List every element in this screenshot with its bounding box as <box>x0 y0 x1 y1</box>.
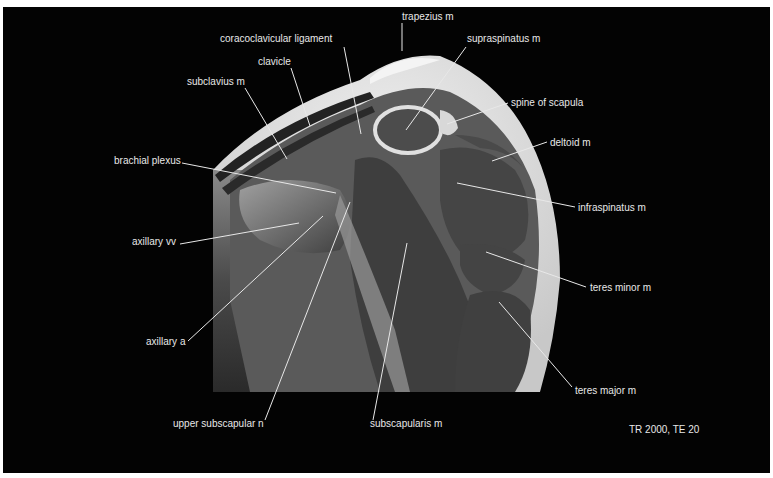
mri-figure: trapezius mcoracoclavicular ligamentsupr… <box>3 7 770 473</box>
label-subscapularis: subscapularis m <box>370 418 442 430</box>
label-supraspinatus: supraspinatus m <box>467 33 540 45</box>
label-tr-te: TR 2000, TE 20 <box>629 424 699 436</box>
label-teres-major: teres major m <box>575 385 636 397</box>
label-subclavius: subclavius m <box>187 76 245 88</box>
label-spine-scapula: spine of scapula <box>511 97 583 109</box>
mri-image <box>3 7 770 473</box>
label-brachial-plexus: brachial plexus <box>114 155 181 167</box>
label-deltoid: deltoid m <box>550 137 591 149</box>
label-axillary-vv: axillary vv <box>132 236 176 248</box>
label-infraspinatus: infraspinatus m <box>578 202 646 214</box>
label-upper-subscapular: upper subscapular n <box>173 418 264 430</box>
label-trapezius: trapezius m <box>402 11 454 23</box>
label-clavicle: clavicle <box>258 56 291 68</box>
label-teres-minor: teres minor m <box>590 282 651 294</box>
label-axillary-a: axillary a <box>146 336 185 348</box>
label-coracoclavicular: coracoclavicular ligament <box>220 33 332 45</box>
